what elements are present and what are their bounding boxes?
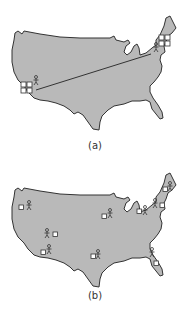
panel-a: (a)	[0, 0, 190, 155]
server-box-icon	[163, 187, 168, 192]
server-box-icon	[165, 35, 170, 40]
server-box-icon	[159, 35, 164, 40]
server-box-icon	[91, 254, 96, 259]
server-box-icon	[21, 82, 26, 87]
panel-b: (b)	[0, 157, 190, 313]
server-box-icon	[160, 203, 165, 208]
caption-b: (b)	[0, 290, 190, 301]
server-box-icon	[53, 232, 58, 237]
us-landmass	[12, 16, 176, 130]
server-box-icon	[102, 214, 107, 219]
server-box-icon	[27, 88, 32, 93]
us-map-a	[0, 0, 190, 155]
server-box-icon	[41, 250, 46, 255]
server-box-icon	[27, 82, 32, 87]
caption-a: (a)	[0, 140, 190, 151]
server-box-icon	[137, 209, 142, 214]
server-box-icon	[159, 41, 164, 46]
server-box-icon	[165, 41, 170, 46]
us-landmass	[12, 173, 176, 287]
server-box-icon	[21, 88, 26, 93]
server-box-icon	[154, 261, 159, 266]
server-box-icon	[19, 205, 24, 210]
